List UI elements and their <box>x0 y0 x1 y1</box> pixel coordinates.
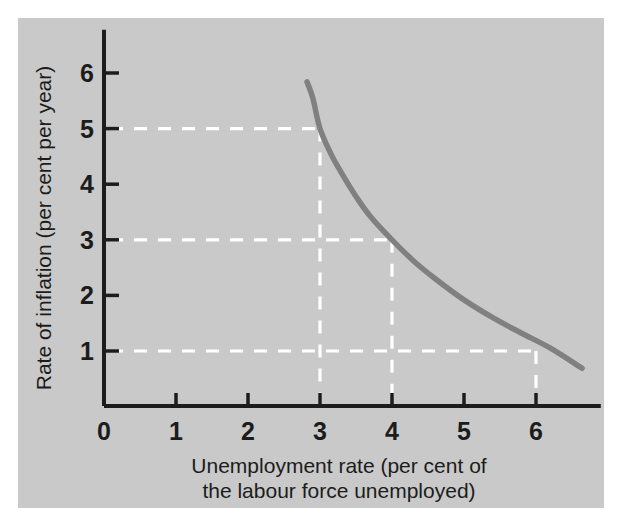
x-axis-title-line1: Unemployment rate (per cent of <box>104 454 574 479</box>
y-axis-title-container: Rate of inflation (per cent per year) <box>18 18 70 438</box>
y-tick-label-4: 4 <box>70 172 94 197</box>
x-tick-label-1: 1 <box>169 419 183 444</box>
y-tick-label-1: 1 <box>70 339 94 364</box>
x-tick-label-5: 5 <box>457 419 471 444</box>
x-tick-label-2: 2 <box>241 419 255 444</box>
x-tick-label-4: 4 <box>385 419 399 444</box>
y-tick-label-5: 5 <box>70 116 94 141</box>
curve-group <box>307 82 582 368</box>
chart-panel: 0123456123456 Rate of inflation (per cen… <box>18 18 604 508</box>
x-axis-title-line2: the labour force unemployed) <box>104 479 574 504</box>
x-tick-label-3: 3 <box>313 419 327 444</box>
y-tick-label-6: 6 <box>70 61 94 86</box>
phillips-curve-figure: 0123456123456 Rate of inflation (per cen… <box>0 0 622 525</box>
x-axis-title: Unemployment rate (per cent of the labou… <box>104 454 574 504</box>
guide-lines-group <box>110 129 536 404</box>
y-tick-label-2: 2 <box>70 283 94 308</box>
x-tick-label-0: 0 <box>97 419 111 444</box>
x-tick-label-6: 6 <box>529 419 543 444</box>
y-tick-label-3: 3 <box>70 227 94 252</box>
curve-phillips-curve <box>307 82 582 368</box>
y-axis-title: Rate of inflation (per cent per year) <box>32 66 56 391</box>
